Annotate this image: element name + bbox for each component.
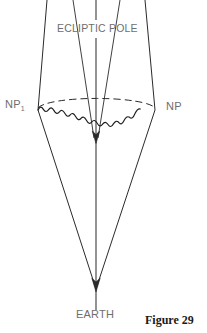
cone-right-lower-generatrix [96,110,155,289]
label-north-pole-past: NP1 [5,98,25,112]
cone-left-lower-generatrix [38,110,96,289]
precession-circle-front-wavy [38,107,140,126]
label-earth: EARTH [76,308,114,320]
figure-29-diagram: ECLIPTIC POLE NP1 NP EARTH Figure 29 [0,0,207,333]
label-north-pole-past-text: NP [5,98,21,110]
label-north-pole-past-subscript: 1 [21,105,25,112]
figure-caption: Figure 29 [145,313,194,328]
cone-right-upper-generatrix [145,0,155,110]
precession-cone-drawing [0,0,207,333]
inner-cone-right-line [98,0,120,138]
label-ecliptic-pole: ECLIPTIC POLE [57,22,138,34]
cone-left-upper-generatrix [38,0,47,110]
label-north-pole: NP [166,100,182,112]
